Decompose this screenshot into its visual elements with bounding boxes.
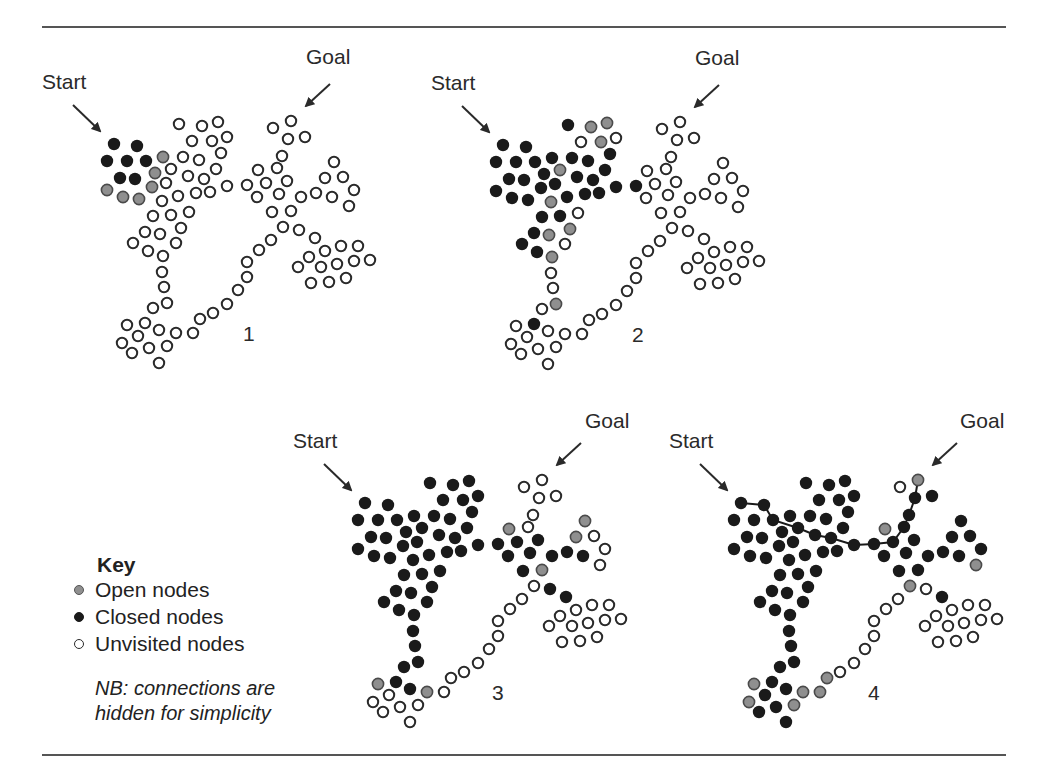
closed-node — [101, 155, 113, 167]
unvisited-node — [529, 581, 539, 591]
unvisited-node — [551, 342, 561, 352]
closed-node — [903, 509, 915, 521]
closed-node — [799, 549, 811, 561]
unvisited-node — [725, 242, 735, 252]
closed-node — [528, 318, 540, 330]
closed-node — [404, 683, 416, 695]
unvisited-node — [306, 278, 316, 288]
unvisited-node — [117, 338, 127, 348]
unvisited-node — [268, 123, 278, 133]
closed-node — [444, 513, 456, 525]
closed-node — [802, 581, 814, 593]
unvisited-node — [274, 189, 284, 199]
closed-node — [561, 191, 573, 203]
unvisited-node — [493, 616, 503, 626]
unvisited-node — [611, 133, 621, 143]
open-node — [146, 181, 157, 192]
unvisited-node — [992, 614, 1002, 624]
unvisited-node — [272, 163, 282, 173]
closed-node — [382, 499, 394, 511]
unvisited-node — [166, 210, 176, 220]
closed-node — [409, 640, 421, 652]
unvisited-node — [173, 191, 183, 201]
closed-node — [774, 569, 786, 581]
unvisited-node — [537, 304, 547, 314]
unvisited-node — [222, 181, 232, 191]
unvisited-node — [721, 260, 731, 270]
unvisited-node — [300, 132, 310, 142]
closed-node — [813, 494, 825, 506]
unvisited-node — [338, 172, 348, 182]
closed-node — [571, 171, 583, 183]
closed-node — [926, 490, 938, 502]
closed-node — [424, 477, 436, 489]
closed-node — [520, 141, 532, 153]
unvisited-node — [157, 196, 167, 206]
unvisited-node — [199, 174, 209, 184]
unvisited-node — [693, 253, 703, 263]
unvisited-node — [869, 616, 879, 626]
closed-node — [770, 701, 782, 713]
unvisited-node — [641, 193, 651, 203]
panel-4 — [700, 443, 1002, 728]
closed-node — [490, 185, 502, 197]
panel-1 — [73, 84, 375, 368]
closed-node — [630, 180, 642, 192]
unvisited-node — [622, 286, 632, 296]
open-node — [554, 164, 565, 175]
legend-item-closed: Closed nodes — [72, 605, 332, 631]
unvisited-node — [968, 632, 978, 642]
closed-node — [546, 152, 558, 164]
unvisited-node — [154, 358, 164, 368]
unvisited-node — [573, 208, 583, 218]
closed-node — [748, 514, 760, 526]
panel-number: 1 — [243, 322, 255, 346]
closed-node — [449, 532, 461, 544]
legend-label-closed: Closed nodes — [95, 605, 223, 629]
unvisited-node — [327, 192, 337, 202]
unvisited-node — [600, 615, 610, 625]
closed-node — [457, 494, 469, 506]
closed-node — [766, 676, 778, 688]
closed-node — [955, 515, 967, 527]
closed-node — [760, 552, 772, 564]
unvisited-node — [511, 321, 521, 331]
unvisited-node — [631, 258, 641, 268]
unvisited-node — [519, 482, 529, 492]
closed-node — [411, 536, 423, 548]
closed-node — [784, 510, 796, 522]
closed-node — [908, 534, 920, 546]
closed-node — [610, 181, 622, 193]
closed-node — [433, 529, 445, 541]
unvisited-node — [166, 164, 176, 174]
unvisited-node — [611, 300, 621, 310]
closed-node — [400, 526, 412, 538]
unvisited-node — [616, 614, 626, 624]
unvisited-node — [187, 136, 197, 146]
unvisited-node — [242, 272, 252, 282]
panel-number: 4 — [868, 681, 880, 705]
closed-node — [753, 706, 765, 718]
closed-node — [937, 546, 949, 558]
open-node — [117, 191, 128, 202]
closed-node — [390, 585, 402, 597]
closed-node — [759, 689, 771, 701]
open-node — [157, 151, 168, 162]
panel-3 — [324, 443, 626, 727]
closed-node — [503, 173, 515, 185]
unvisited-node — [413, 700, 423, 710]
closed-node — [121, 155, 133, 167]
unvisited-node — [133, 331, 143, 341]
closed-node — [391, 514, 403, 526]
unvisited-node — [584, 315, 594, 325]
closed-node — [887, 536, 899, 548]
unvisited-node — [522, 332, 532, 342]
start-label: Start — [42, 70, 86, 94]
closed-node — [848, 490, 860, 502]
goal-label: Goal — [695, 46, 739, 70]
unvisited-node — [666, 152, 676, 162]
unvisited-node — [577, 329, 587, 339]
unvisited-node — [655, 236, 665, 246]
unvisited-node — [171, 238, 181, 248]
closed-node — [398, 661, 410, 673]
